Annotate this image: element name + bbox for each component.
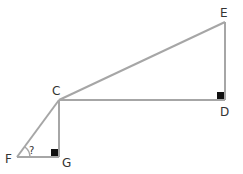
segments xyxy=(17,22,225,157)
point-label-c: C xyxy=(52,84,60,98)
geometry-diagram: ? E D C G F xyxy=(0,0,243,174)
point-label-e: E xyxy=(220,6,228,20)
segment-ce xyxy=(59,22,225,100)
right-angle-marker-g xyxy=(51,149,58,156)
point-label-d: D xyxy=(220,105,229,119)
point-label-f: F xyxy=(5,152,12,166)
unknown-angle-label: ? xyxy=(29,145,34,156)
right-angle-marker-d xyxy=(217,92,224,99)
point-label-g: G xyxy=(62,156,71,170)
segment-fc xyxy=(17,100,59,157)
